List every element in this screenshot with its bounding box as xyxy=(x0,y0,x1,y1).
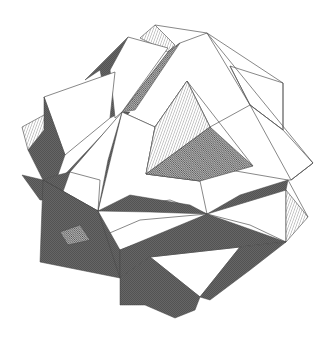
polyhedron-illustration xyxy=(0,0,333,339)
